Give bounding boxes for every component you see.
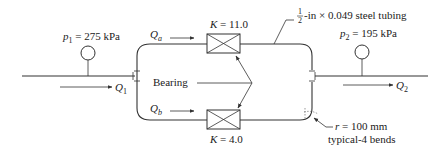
pressure-gauge-1-icon: [81, 46, 95, 76]
branch-b-flow-label: Qb: [150, 102, 162, 117]
bearing-a-box: [207, 34, 240, 53]
pressure-gauge-2-icon: [355, 45, 369, 76]
branch-a-outlet-tube: [240, 44, 312, 70]
svg-text:1: 1: [298, 7, 302, 16]
outlet-tee-fitting: [309, 71, 315, 81]
branch-b-k-label: K = 4.0: [209, 133, 243, 145]
bend-radius-label: r = 100 mm: [335, 120, 388, 132]
branch-a-flow-label: Qa: [150, 28, 162, 43]
branch-b-outlet-tube: [240, 82, 312, 120]
inlet-flow-label: Q1: [115, 81, 127, 96]
bearing-label: Bearing: [153, 76, 188, 88]
svg-text:-in × 0.049 steel tubing: -in × 0.049 steel tubing: [304, 9, 407, 21]
left-manifold-tube: [137, 44, 150, 120]
bend-count-note: typical-4 bends: [328, 133, 396, 145]
tubing-spec-label: 1 2 -in × 0.049 steel tubing: [297, 7, 407, 25]
inlet-pressure-label: p1 = 275 kPa: [62, 30, 120, 45]
bearing-leader-lines: [197, 56, 252, 108]
tubing-leader-line: [274, 20, 294, 44]
branch-a-k-label: K = 11.0: [209, 18, 248, 30]
outlet-flow-label: Q2: [396, 79, 408, 94]
outlet-pressure-label: p2 = 195 kPa: [339, 27, 397, 42]
bearing-b-box: [207, 110, 240, 129]
pipe-network-diagram: p1 = 275 kPa Q1 Qa K = 11.0 Qb K = 4.0 B…: [0, 0, 448, 154]
svg-text:2: 2: [298, 16, 302, 25]
